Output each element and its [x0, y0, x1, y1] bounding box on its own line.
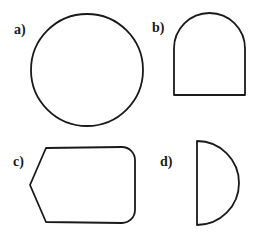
- shape-b-arch: [174, 13, 245, 95]
- shape-c-pointed-rounded: [30, 147, 135, 223]
- shape-d-semicircle: [197, 141, 239, 225]
- shape-label-c: c): [13, 155, 24, 169]
- shape-a-circle: [31, 14, 143, 126]
- shapes-figure: a) b) c) d): [0, 0, 257, 235]
- shape-label-d: d): [160, 155, 172, 169]
- shape-label-a: a): [14, 23, 26, 37]
- shape-label-b: b): [152, 21, 164, 35]
- shapes-canvas: [0, 0, 257, 235]
